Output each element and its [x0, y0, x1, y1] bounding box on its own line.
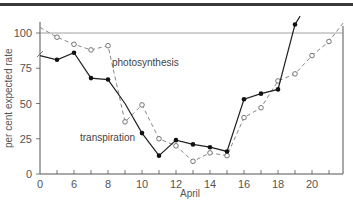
svg-text:20: 20 — [306, 178, 318, 190]
svg-text:100: 100 — [14, 27, 32, 39]
transpiration-label: transpiration — [80, 132, 135, 143]
figure-caption-cropped — [2, 198, 202, 208]
svg-text:50: 50 — [20, 98, 32, 110]
svg-text:18: 18 — [272, 178, 284, 190]
svg-text:25: 25 — [20, 133, 32, 145]
y-axis-title: per cent expected rate — [3, 48, 14, 148]
svg-text:14: 14 — [204, 178, 216, 190]
svg-text:16: 16 — [238, 178, 250, 190]
line-chart: 0255075100068101214161820 photosynthesis… — [0, 0, 353, 208]
axis-ticks: 0255075100068101214161820 — [14, 27, 329, 190]
axes — [37, 22, 343, 174]
svg-text:0: 0 — [26, 168, 32, 180]
svg-text:6: 6 — [71, 178, 77, 190]
svg-text:10: 10 — [136, 178, 148, 190]
svg-text:0: 0 — [37, 178, 43, 190]
svg-text:75: 75 — [20, 62, 32, 74]
photosynthesis-label: photosynthesis — [112, 57, 179, 68]
svg-text:8: 8 — [105, 178, 111, 190]
